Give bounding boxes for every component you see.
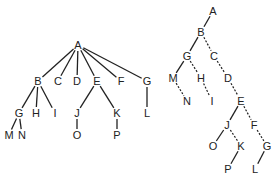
tree-diagram-canvas: ABCDEFGGHIJKLMNOP ABGCMHDNIEJFOKGPL	[0, 0, 276, 181]
tree-node-o: O	[73, 129, 82, 141]
sibling-edge	[204, 83, 210, 95]
tree-node-d: D	[224, 72, 232, 84]
tree-node-p: P	[113, 129, 120, 141]
tree-edge	[11, 118, 16, 129]
tree-node-l: L	[252, 163, 258, 175]
tree-edge	[41, 86, 52, 107]
tree-edge	[80, 86, 94, 108]
tree-node-l: L	[144, 107, 150, 119]
tree-node-k: K	[237, 140, 245, 152]
tree-edge	[42, 49, 73, 77]
child-edge	[258, 151, 264, 163]
tree-node-k: K	[113, 107, 121, 119]
child-edge	[231, 151, 238, 164]
child-edge	[190, 37, 198, 51]
tree-node-h: H	[32, 107, 40, 119]
tree-edge	[36, 87, 37, 107]
tree-node-c: C	[210, 50, 218, 62]
tree-node-m: M	[168, 72, 177, 84]
tree-node-e: E	[237, 95, 244, 107]
sibling-edge	[204, 37, 211, 50]
tree-node-f: F	[118, 75, 125, 87]
tree-node-a: A	[74, 39, 82, 51]
binary-tree-representation: ABGCMHDNIEJFOKGPL	[168, 5, 271, 175]
tree-edge	[22, 86, 35, 108]
tree-node-a: A	[209, 5, 217, 17]
tree-node-b: B	[34, 75, 41, 87]
tree-edge	[100, 86, 114, 108]
tree-node-g: G	[183, 50, 192, 62]
tree-node-d: D	[73, 75, 81, 87]
tree-node-c: C	[54, 75, 62, 87]
tree-node-n: N	[18, 129, 26, 141]
sibling-edge	[231, 83, 238, 96]
tree-edge	[20, 119, 21, 129]
tree-edge	[77, 51, 78, 75]
tree-node-n: N	[183, 95, 191, 107]
tree-node-g: G	[143, 75, 152, 87]
tree-edge	[81, 50, 94, 75]
child-edge	[216, 130, 223, 141]
sibling-edge	[176, 83, 184, 96]
tree-node-j: J	[74, 107, 80, 119]
tree-node-b: B	[197, 26, 204, 38]
tree-node-g: G	[263, 140, 272, 152]
tree-node-o: O	[209, 140, 218, 152]
tree-node-j: J	[224, 119, 230, 131]
tree-node-m: M	[4, 129, 13, 141]
sibling-edge	[244, 106, 251, 119]
tree-node-i: I	[53, 107, 56, 119]
tree-node-h: H	[197, 72, 205, 84]
tree-node-f: F	[251, 119, 258, 131]
tree-node-e: E	[93, 75, 100, 87]
tree-node-g: G	[15, 107, 24, 119]
tree-node-p: P	[224, 163, 231, 175]
tree-node-i: I	[210, 95, 213, 107]
child-edge	[204, 16, 210, 27]
general-tree: ABCDEFGGHIJKLMNOP	[4, 39, 151, 141]
child-edge	[230, 106, 238, 120]
